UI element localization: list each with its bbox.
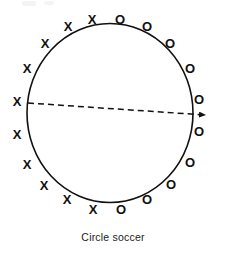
team-x-markers: XXXXXXXXXX bbox=[13, 12, 98, 217]
player-marker-o-6: O bbox=[194, 124, 204, 139]
player-marker-x-6: X bbox=[13, 127, 22, 142]
figure-caption: Circle soccer bbox=[0, 231, 226, 244]
player-marker-o-5: O bbox=[194, 92, 204, 107]
player-marker-x-4: X bbox=[23, 61, 32, 76]
player-marker-o-4: O bbox=[185, 61, 195, 76]
player-marker-o-10: O bbox=[116, 202, 126, 217]
player-marker-x-7: X bbox=[23, 157, 32, 172]
player-marker-x-8: X bbox=[40, 178, 49, 193]
player-marker-o-8: O bbox=[166, 177, 176, 192]
player-marker-x-5: X bbox=[13, 94, 22, 109]
player-marker-x-3: X bbox=[41, 36, 50, 51]
player-marker-o-1: O bbox=[115, 12, 125, 27]
dashed-ball-path bbox=[28, 103, 205, 115]
circle-soccer-diagram: XXXXXXXXXX OOOOOOOOOO bbox=[0, 0, 226, 254]
player-marker-o-2: O bbox=[142, 19, 152, 34]
player-marker-o-9: O bbox=[142, 192, 152, 207]
player-marker-x-1: X bbox=[88, 12, 97, 27]
player-marker-x-10: X bbox=[89, 202, 98, 217]
player-marker-o-3: O bbox=[165, 36, 175, 51]
figure-container: XXXXXXXXXX OOOOOOOOOO Circle soccer bbox=[0, 0, 226, 254]
team-o-markers: OOOOOOOOOO bbox=[115, 12, 204, 217]
player-marker-x-9: X bbox=[63, 192, 72, 207]
player-marker-x-2: X bbox=[64, 19, 73, 34]
player-marker-o-7: O bbox=[185, 155, 195, 170]
